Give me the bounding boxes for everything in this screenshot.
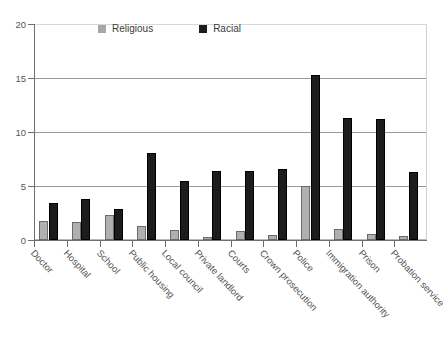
bar-racial-public-housing	[147, 153, 156, 240]
bar-religious-courts	[236, 231, 245, 240]
bar-religious-doctor	[39, 221, 48, 240]
bar-religious-school	[105, 215, 114, 240]
bar-religious-police	[301, 186, 310, 240]
y-axis-label-5: 5	[0, 182, 26, 192]
bar-racial-probation-service	[409, 172, 418, 240]
legend-item-racial: Racial	[199, 23, 241, 34]
legend-swatch-racial-icon	[199, 25, 207, 33]
x-tick	[362, 241, 363, 247]
bar-racial-hospital	[81, 199, 90, 240]
x-axis-category-label: Police	[291, 248, 316, 273]
x-axis-category-label: Doctor	[29, 248, 55, 275]
x-axis-category-label: Crown prosecution	[258, 248, 319, 312]
y-axis-label-0: 0	[0, 236, 26, 246]
x-axis-category-label: Hospital	[62, 248, 92, 280]
x-tick	[100, 241, 101, 247]
y-tick-15	[28, 78, 35, 79]
y-tick-20	[28, 24, 35, 25]
y-axis-label-20: 20	[0, 20, 26, 30]
bar-religious-probation-service	[399, 236, 408, 240]
bar-racial-school	[114, 209, 123, 240]
x-axis-category-label: Probation service	[389, 248, 446, 308]
x-axis-category-label: Immigration authority	[324, 248, 391, 319]
bar-religious-prison	[367, 234, 376, 240]
legend-label-religious: Religious	[112, 23, 153, 34]
x-tick	[165, 241, 166, 247]
y-tick-5	[28, 186, 35, 187]
bar-racial-immigration-authority	[343, 118, 352, 240]
bar-racial-doctor	[49, 203, 58, 240]
bar-racial-private-landlord	[212, 171, 221, 240]
x-tick	[329, 241, 330, 247]
gridline-15	[35, 78, 426, 79]
bar-religious-public-housing	[137, 226, 146, 240]
bar-religious-crown-prosecution	[268, 235, 277, 240]
plot-area	[34, 24, 427, 240]
x-tick	[263, 241, 264, 247]
bar-racial-courts	[245, 171, 254, 240]
bar-racial-prison	[376, 119, 385, 240]
x-tick	[231, 241, 232, 247]
x-axis-category-label: Courts	[226, 248, 252, 275]
x-tick	[67, 241, 68, 247]
y-axis-label-15: 15	[0, 74, 26, 84]
bar-racial-police	[311, 75, 320, 240]
gridline-5	[35, 186, 426, 187]
legend-swatch-religious-icon	[98, 25, 106, 33]
bar-racial-local-council	[180, 181, 189, 240]
bar-racial-crown-prosecution	[278, 169, 287, 240]
legend-label-racial: Racial	[213, 23, 241, 34]
x-tick	[198, 241, 199, 247]
gridline-10	[35, 132, 426, 133]
y-axis-label-10: 10	[0, 128, 26, 138]
bar-religious-hospital	[72, 222, 81, 240]
x-tick	[296, 241, 297, 247]
x-tick	[34, 241, 35, 247]
x-axis-category-label: Prison	[357, 248, 382, 274]
bar-religious-private-landlord	[203, 237, 212, 240]
bar-religious-local-council	[170, 230, 179, 240]
x-tick	[394, 241, 395, 247]
y-tick-10	[28, 132, 35, 133]
chart-legend: Religious Racial	[98, 23, 241, 34]
x-tick	[132, 241, 133, 247]
bar-chart: 20 15 10 5 0 Religious Racial DoctorHosp…	[0, 0, 448, 340]
x-axis-category-label: School	[95, 248, 122, 276]
legend-item-religious: Religious	[98, 23, 153, 34]
bar-religious-immigration-authority	[334, 229, 343, 240]
